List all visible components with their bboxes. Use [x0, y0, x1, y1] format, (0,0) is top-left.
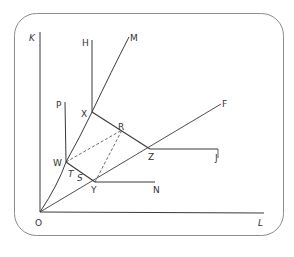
- label-z: Z: [148, 152, 154, 162]
- label-y: Y: [90, 185, 97, 195]
- label-x: X: [81, 109, 87, 119]
- ray-of: [40, 104, 221, 212]
- figure-caption: Figure 5.5.2 (partially hidden): [60, 249, 240, 257]
- label-l: L: [258, 218, 263, 228]
- diagram-canvas: K L O H M P X R F W Z J T S Y N: [0, 0, 294, 257]
- label-p: P: [56, 100, 62, 110]
- line-pw: [65, 102, 66, 162]
- label-f: F: [222, 99, 227, 109]
- label-s: S: [77, 173, 83, 183]
- label-r: R: [118, 122, 124, 132]
- diagram-frame: [15, 14, 284, 236]
- label-h: H: [82, 38, 89, 48]
- l-axis: [40, 212, 264, 213]
- dashed-yr: [95, 130, 122, 182]
- label-k: K: [29, 33, 36, 43]
- label-w: W: [53, 158, 62, 168]
- label-o: O: [35, 218, 42, 228]
- label-j: J: [214, 153, 218, 163]
- label-n: N: [153, 185, 160, 195]
- label-m: M: [130, 33, 138, 43]
- label-t: T: [68, 169, 75, 179]
